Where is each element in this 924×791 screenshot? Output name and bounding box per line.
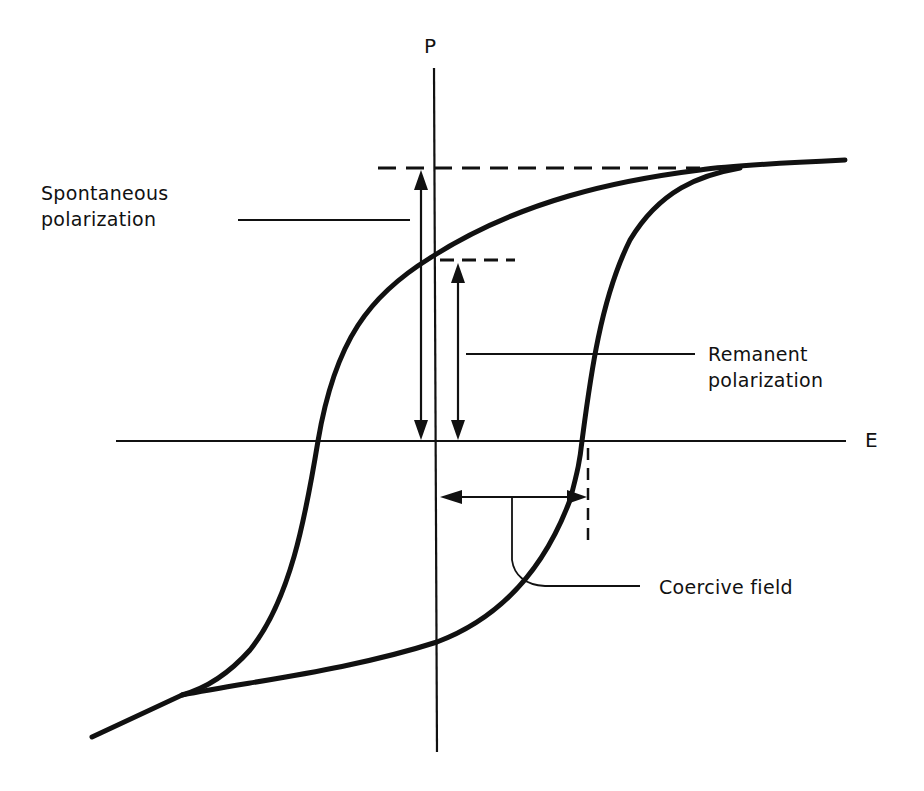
coercive-field-label: Coercive field [659, 574, 793, 600]
e-axis-label: E [865, 428, 878, 452]
spontaneous-line1: Spontaneous [41, 180, 168, 206]
loop-descending-branch [92, 160, 845, 737]
p-axis-label: P [424, 34, 436, 58]
loop-ascending-branch [182, 168, 740, 695]
remanent-arrowhead-up [451, 263, 465, 283]
coercive-arrowhead-right [567, 490, 587, 504]
remanent-line1: Remanent [708, 341, 823, 367]
remanent-line2: polarization [708, 367, 823, 393]
spontaneous-line2: polarization [41, 206, 168, 232]
p-axis [434, 68, 437, 752]
coercive-arrowhead-left [440, 490, 462, 504]
remanent-polarization-label: Remanent polarization [708, 341, 823, 393]
hysteresis-diagram [0, 0, 924, 791]
spontaneous-polarization-label: Spontaneous polarization [41, 180, 168, 232]
spontaneous-arrowhead-up [414, 170, 428, 190]
remanent-arrowhead-down [451, 420, 465, 440]
spontaneous-arrowhead-down [414, 420, 428, 440]
